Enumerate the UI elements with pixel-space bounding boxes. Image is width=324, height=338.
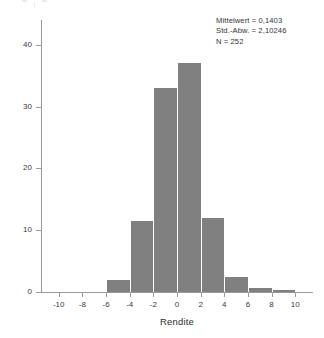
histogram-bar	[248, 288, 272, 292]
y-axis-tick	[36, 107, 41, 108]
x-axis-tick	[201, 293, 202, 297]
y-axis-tick	[36, 292, 41, 293]
histogram-bar	[153, 88, 177, 292]
y-axis-tick-label: 40	[0, 40, 32, 49]
x-axis-tick	[177, 293, 178, 297]
histogram-bar	[224, 277, 248, 292]
histogram-bar	[201, 218, 225, 292]
y-axis-tick-label: 0	[0, 287, 32, 296]
x-axis-title: Rendite	[41, 316, 313, 327]
mean-stat: Mittelwert = 0,1403	[216, 16, 287, 26]
histogram-bar	[106, 280, 130, 292]
y-axis-tick-label: 20	[0, 163, 32, 172]
x-axis-tick	[224, 293, 225, 297]
histogram-chart: Mittelwert = 0,1403 Std.-Abw. = 2,10246 …	[0, 0, 324, 338]
x-axis-tick	[153, 293, 154, 297]
y-axis-tick-label: 30	[0, 102, 32, 111]
histogram-bar	[130, 221, 154, 292]
y-axis-tick	[36, 45, 41, 46]
statistics-annotation: Mittelwert = 0,1403 Std.-Abw. = 2,10246 …	[216, 16, 287, 47]
y-axis-tick	[36, 168, 41, 169]
x-axis-tick	[248, 293, 249, 297]
y-axis-tick	[36, 230, 41, 231]
x-axis-tick	[82, 293, 83, 297]
histogram-bar	[272, 290, 296, 292]
x-axis-tick	[295, 293, 296, 297]
x-axis-tick	[130, 293, 131, 297]
sample-size-stat: N = 252	[216, 37, 287, 47]
y-axis-line	[41, 20, 42, 293]
y-axis-tick-label: 10	[0, 225, 32, 234]
x-axis-tick-label: 10	[280, 300, 310, 309]
scan-artifact	[22, 0, 48, 9]
x-axis-tick	[272, 293, 273, 297]
x-axis-tick	[106, 293, 107, 297]
x-axis-tick	[59, 293, 60, 297]
histogram-bar	[177, 63, 201, 292]
std-dev-stat: Std.-Abw. = 2,10246	[216, 26, 287, 36]
